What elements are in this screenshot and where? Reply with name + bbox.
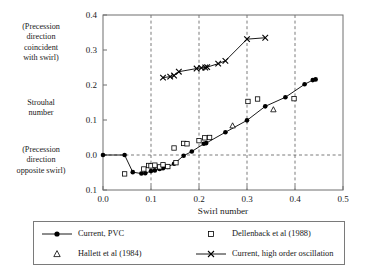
- x-tick-label: 0.1: [145, 194, 156, 204]
- legend-item-hallett[interactable]: Hallett et al (1984): [34, 243, 192, 264]
- series-line: [103, 79, 316, 173]
- y-tick-label: 0.4: [86, 10, 98, 20]
- data-point: [142, 167, 146, 171]
- legend-key-open-triangle: [40, 247, 74, 261]
- data-point: [153, 168, 158, 173]
- data-point: [153, 163, 157, 167]
- data-point: [203, 136, 207, 140]
- legend-label: Dellenback et al (1988): [232, 229, 311, 238]
- legend-item-dellenback[interactable]: Dellenback et al (1988): [192, 223, 342, 244]
- x-tick-label: 0.5: [337, 194, 349, 204]
- data-point: [283, 95, 288, 100]
- x-tick-label: 0.2: [193, 194, 204, 204]
- data-point: [271, 107, 276, 112]
- legend-label: Current, PVC: [78, 229, 124, 238]
- legend-item-high-order-oscillation[interactable]: Current, high order oscillation: [192, 243, 342, 264]
- axis-ticks: [103, 15, 343, 190]
- data-point: [223, 130, 228, 135]
- data-point: [185, 142, 189, 146]
- y-tick-label: 0.1: [86, 185, 97, 195]
- data-point: [122, 172, 126, 176]
- legend: Current, PVC Dellenback et al (1988) Hal: [33, 221, 345, 265]
- x-tick-label: 0.3: [241, 194, 253, 204]
- data-point: [161, 163, 165, 167]
- data-point: [245, 118, 250, 123]
- data-point: [255, 97, 259, 101]
- figure-container: (Precession direction coincident with sw…: [0, 0, 366, 271]
- x-axis-label: Swirl number: [198, 206, 248, 216]
- grid-lines: [103, 15, 343, 190]
- data-point: [101, 153, 106, 158]
- data-point: [292, 96, 296, 100]
- data-point: [122, 153, 127, 158]
- legend-row: Current, PVC Dellenback et al (1988): [34, 223, 344, 244]
- legend-label: Current, high order oscillation: [232, 249, 333, 258]
- data-point: [207, 135, 211, 139]
- series-open-square: [122, 96, 296, 176]
- data-point: [190, 149, 195, 154]
- x-tick-label: 0.0: [97, 194, 109, 204]
- y-tick-label: 0.3: [86, 45, 98, 55]
- data-point: [302, 82, 307, 87]
- y-tick-label: 0.2: [86, 80, 97, 90]
- y-tick-label: 0.1: [86, 115, 97, 125]
- plot-frame: [103, 15, 343, 190]
- legend-key-line-filled-circle: [40, 227, 74, 241]
- legend-label: Hallett et al (1984): [78, 249, 142, 258]
- data-point: [149, 169, 154, 174]
- data-point: [174, 161, 178, 165]
- x-tick-label: 0.4: [289, 194, 301, 204]
- legend-key-open-square: [194, 227, 228, 241]
- data-point: [246, 99, 250, 103]
- data-point: [166, 164, 170, 168]
- data-point: [197, 138, 201, 142]
- x-axis-title: Swirl number: [198, 206, 248, 216]
- y-tick-label: 0.0: [86, 150, 98, 160]
- data-point: [230, 123, 235, 128]
- data-point: [130, 170, 135, 175]
- legend-item-current-pvc[interactable]: Current, PVC: [34, 223, 192, 244]
- series-line-filled-circle: [101, 77, 318, 176]
- legend-row: Hallett et al (1984) Current, high order…: [34, 243, 344, 264]
- data-point: [204, 141, 209, 146]
- data-point: [313, 77, 318, 82]
- data-point: [172, 146, 176, 150]
- data-point: [181, 153, 186, 158]
- series-open-triangle: [230, 107, 276, 128]
- series-line-x-marker: [160, 35, 268, 80]
- data-point: [263, 104, 268, 109]
- legend-key-line-x-marker: [194, 247, 228, 261]
- axes-frame: [103, 15, 343, 190]
